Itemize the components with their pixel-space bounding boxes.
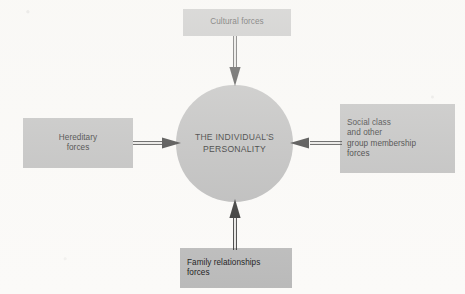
- individuals-personality-label: THE INDIVIDUAL'S PERSONALITY: [195, 132, 274, 155]
- family-relationships-forces-label: Family relationships forces: [187, 258, 260, 279]
- hereditary-forces-label: Hereditary forces: [59, 133, 97, 154]
- node-social-class-and-other-group-membership-forces[interactable]: Social class and other group membership …: [340, 104, 455, 173]
- social-class-forces-label: Social class and other group membership …: [347, 118, 416, 160]
- node-individuals-personality[interactable]: THE INDIVIDUAL'S PERSONALITY: [176, 85, 293, 202]
- node-family-relationships-forces[interactable]: Family relationships forces: [180, 248, 292, 288]
- arrow-hereditary-to-center: [133, 136, 183, 150]
- arrow-cultural-to-center: [228, 36, 242, 88]
- arrow-family-to-center: [228, 198, 242, 250]
- arrow-social-class-to-center: [288, 136, 342, 150]
- node-cultural-forces[interactable]: Cultural forces: [183, 9, 291, 36]
- node-hereditary-forces[interactable]: Hereditary forces: [23, 118, 133, 168]
- cultural-forces-label: Cultural forces: [210, 17, 264, 27]
- diagram-canvas: Cultural forces Hereditary forces Social…: [0, 0, 465, 294]
